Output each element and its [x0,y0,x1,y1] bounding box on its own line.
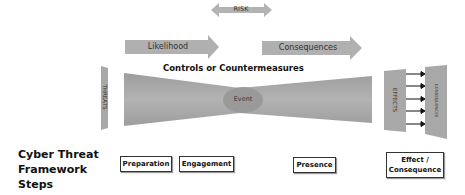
framework-title-line2: Framework [18,162,99,177]
step-effect-consequence: Effect / Consequence [386,152,444,178]
framework-title: Cyber Threat Framework Steps [18,147,99,192]
framework-title-line3: Steps [18,177,99,192]
effect-arrows [406,72,425,127]
step-engagement: Engagement [179,156,234,172]
step-effect-line1: Effect / [401,155,429,165]
event-label: Event [226,95,260,103]
step-presence: Presence [293,157,336,173]
step-effect-line2: Consequence [389,165,441,175]
controls-label: Controls or Countermeasures [163,63,304,73]
likelihood-label: Likelihood [130,42,206,51]
framework-title-line1: Cyber Threat [18,147,99,162]
step-preparation: Preparation [120,156,172,172]
threats-label: THREATS [102,78,108,116]
consequences-label: Consequences [265,43,351,52]
risk-label: RISK [221,5,261,13]
effects-label: EFFECTS [392,81,398,119]
consequences-panel-label: CONSEQUENCES [434,76,439,126]
